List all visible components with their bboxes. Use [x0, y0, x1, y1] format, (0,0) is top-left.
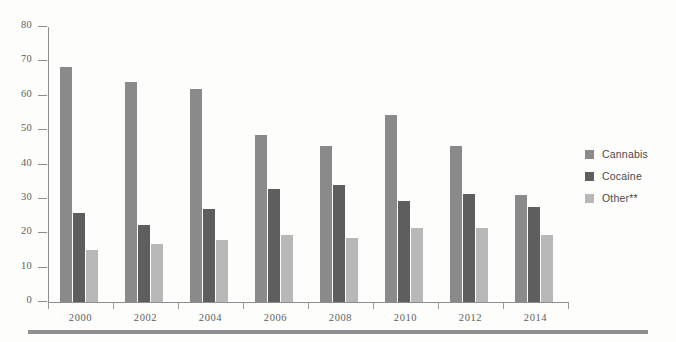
bar-cannabis-2002: [125, 82, 137, 302]
bar-cannabis-2014: [515, 195, 527, 302]
x-tick-mark: [373, 302, 374, 309]
y-tick-mark: [38, 26, 47, 27]
plot-area: [48, 27, 568, 302]
y-tick-label: 10: [0, 260, 32, 271]
bar-other-2000: [86, 250, 98, 302]
y-tick-label: 30: [0, 191, 32, 202]
bar-cocaine-2002: [138, 225, 150, 302]
y-tick-mark: [38, 301, 47, 302]
legend-label: Other**: [602, 192, 638, 204]
bar-other-2010: [411, 228, 423, 302]
y-tick-mark: [38, 60, 47, 61]
legend-label: Cocaine: [602, 170, 642, 182]
bar-group: [60, 27, 98, 302]
bar-group: [385, 27, 423, 302]
bar-cannabis-2010: [385, 115, 397, 302]
bar-cannabis-2006: [255, 135, 267, 302]
x-tick-label: 2002: [116, 312, 176, 323]
y-tick-label: 40: [0, 157, 32, 168]
legend-swatch-icon: [585, 150, 594, 159]
bar-other-2004: [216, 240, 228, 302]
bar-group: [125, 27, 163, 302]
x-tick-label: 2012: [441, 312, 501, 323]
y-tick-mark: [38, 198, 47, 199]
y-tick-label: 20: [0, 225, 32, 236]
y-tick-mark: [38, 129, 47, 130]
y-tick-mark: [38, 267, 47, 268]
bar-cocaine-2010: [398, 201, 410, 302]
y-tick-mark: [38, 232, 47, 233]
legend-item: Cannabis: [585, 143, 648, 165]
y-tick-label: 70: [0, 53, 32, 64]
x-tick-label: 2000: [51, 312, 111, 323]
x-tick-mark: [178, 302, 179, 309]
x-tick-mark: [308, 302, 309, 309]
bar-cocaine-2004: [203, 209, 215, 302]
chart-legend: CannabisCocaineOther**: [585, 143, 648, 209]
legend-label: Cannabis: [602, 148, 648, 160]
x-tick-label: 2010: [376, 312, 436, 323]
x-tick-label: 2004: [181, 312, 241, 323]
bar-cocaine-2014: [528, 207, 540, 302]
bar-cannabis-2008: [320, 146, 332, 302]
y-tick-label: 50: [0, 122, 32, 133]
x-tick-label: 2006: [246, 312, 306, 323]
x-tick-mark: [243, 302, 244, 309]
bar-group: [190, 27, 228, 302]
legend-swatch-icon: [585, 194, 594, 203]
legend-item: Cocaine: [585, 165, 648, 187]
bar-chart: 01020304050607080 2000200220042006200820…: [0, 0, 676, 342]
bar-other-2002: [151, 244, 163, 302]
bar-cocaine-2000: [73, 213, 85, 302]
y-tick-mark: [38, 95, 47, 96]
bar-cannabis-2000: [60, 67, 72, 302]
legend-swatch-icon: [585, 172, 594, 181]
x-tick-mark: [113, 302, 114, 309]
x-tick-mark: [48, 302, 49, 309]
bar-group: [255, 27, 293, 302]
x-tick-mark: [438, 302, 439, 309]
legend-item: Other**: [585, 187, 648, 209]
bar-other-2012: [476, 228, 488, 302]
y-tick-label: 80: [0, 19, 32, 30]
y-tick-label: 60: [0, 88, 32, 99]
x-tick-label: 2008: [311, 312, 371, 323]
bar-group: [515, 27, 553, 302]
bottom-rule-divider: [28, 330, 648, 334]
y-tick-mark: [38, 164, 47, 165]
bar-cannabis-2004: [190, 89, 202, 302]
bar-cocaine-2006: [268, 189, 280, 302]
x-tick-mark: [568, 302, 569, 309]
bar-cannabis-2012: [450, 146, 462, 302]
bar-other-2008: [346, 238, 358, 302]
bar-other-2014: [541, 235, 553, 302]
x-tick-mark: [503, 302, 504, 309]
y-tick-label: 0: [0, 294, 32, 305]
bar-cocaine-2008: [333, 185, 345, 302]
bar-other-2006: [281, 235, 293, 302]
bar-group: [450, 27, 488, 302]
bar-group: [320, 27, 358, 302]
bar-cocaine-2012: [463, 194, 475, 302]
x-tick-label: 2014: [506, 312, 566, 323]
